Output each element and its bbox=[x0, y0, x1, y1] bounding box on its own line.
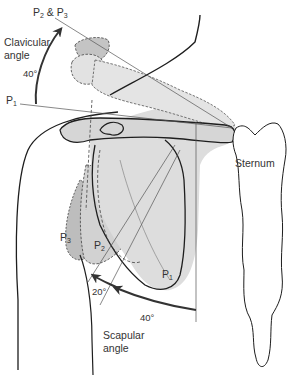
label-p2-scapula-sub: 2 bbox=[101, 245, 105, 252]
label-clavicular-line1: Clavicular bbox=[4, 36, 50, 49]
label-p2-p3: P2 & P3 bbox=[33, 6, 68, 22]
label-p1-left-sub: 1 bbox=[13, 100, 17, 107]
scapular-angle-arrow-40 bbox=[116, 288, 196, 310]
label-p1-scapula: P1 bbox=[162, 268, 173, 284]
label-scapular-line1: Scapular bbox=[103, 329, 144, 342]
label-p2-scapula-p: P bbox=[94, 239, 101, 251]
label-p2-p3-p: P bbox=[33, 6, 40, 18]
label-p2-p3-sub2: 3 bbox=[64, 12, 68, 19]
label-scapular-angle: Scapular angle bbox=[103, 329, 144, 355]
label-p3-scapula-sub: 3 bbox=[67, 237, 71, 244]
label-p1-scapula-sub: 1 bbox=[169, 274, 173, 281]
label-p1-left-p: P bbox=[6, 94, 13, 106]
label-clavicular-degrees: 40° bbox=[23, 68, 37, 80]
label-p1-left: P1 bbox=[6, 94, 17, 110]
label-scapular-40: 40° bbox=[140, 312, 154, 324]
label-p1-scapula-p: P bbox=[162, 268, 169, 280]
label-p3-scapula-p: P bbox=[60, 231, 67, 243]
label-p3-scapula: P3 bbox=[60, 231, 71, 247]
label-sternum: Sternum bbox=[235, 157, 275, 169]
label-clavicular-angle: Clavicular angle bbox=[4, 36, 50, 62]
label-p2-p3-amp: & P bbox=[44, 6, 64, 18]
label-scapular-line2: angle bbox=[103, 342, 144, 355]
label-p2-scapula: P2 bbox=[94, 239, 105, 255]
label-clavicular-line2: angle bbox=[4, 49, 50, 62]
label-scapular-20: 20° bbox=[92, 286, 106, 298]
arm-inner-outline bbox=[80, 255, 93, 375]
